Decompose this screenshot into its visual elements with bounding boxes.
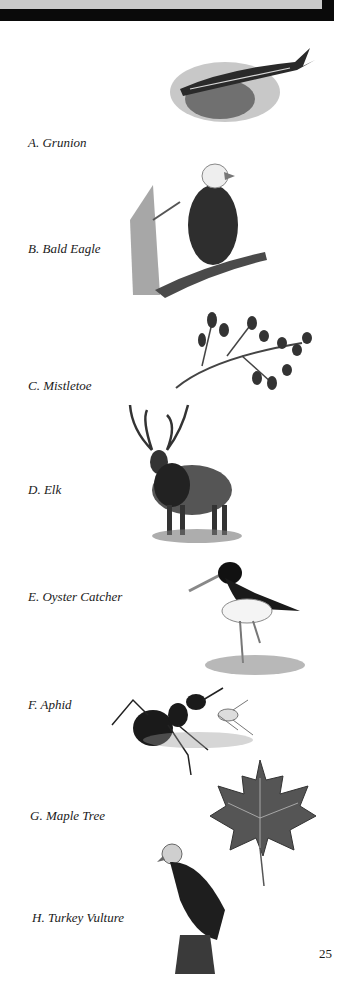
fish-illustration-icon (165, 44, 315, 124)
item-label-mistletoe: C. Mistletoe (28, 378, 92, 394)
header-banner (0, 0, 322, 9)
item-label-turkey-vulture: H. Turkey Vulture (32, 910, 124, 926)
item-label-bald-eagle: B. Bald Eagle (28, 241, 101, 257)
mistletoe-illustration-icon (172, 308, 317, 398)
page-number: 25 (319, 946, 332, 962)
item-label-oyster-catcher: E. Oyster Catcher (28, 589, 122, 605)
item-label-grunion: A. Grunion (28, 135, 87, 151)
vulture-illustration-icon (155, 840, 235, 976)
item-label-maple-tree: G. Maple Tree (30, 808, 105, 824)
eagle-illustration-icon (125, 160, 270, 300)
oystercatcher-illustration-icon (185, 553, 305, 675)
item-label-aphid: F. Aphid (28, 697, 72, 713)
item-label-elk: D. Elk (28, 482, 61, 498)
elk-illustration-icon (122, 400, 242, 545)
